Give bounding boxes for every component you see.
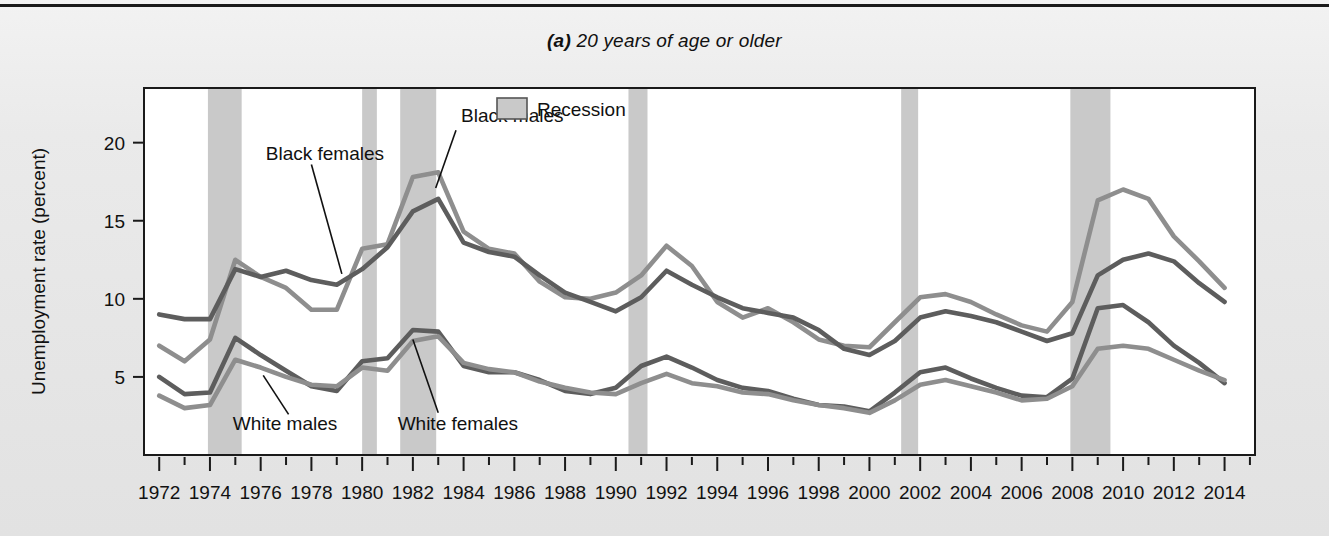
- chart-area: 5101520Unemployment rate (percent) 19721…: [0, 0, 1329, 536]
- x-tick-label: 1986: [493, 482, 535, 503]
- chart-legend: Recession: [497, 98, 626, 120]
- x-tick-label: 1972: [138, 482, 180, 503]
- legend-swatch-recession: [497, 98, 527, 119]
- x-tick-label: 1978: [290, 482, 332, 503]
- x-tick-label: 1992: [645, 482, 687, 503]
- annotation-label-white-males: White males: [233, 413, 338, 434]
- x-tick-label: 2010: [1102, 482, 1144, 503]
- x-tick-label: 1982: [392, 482, 434, 503]
- recession-band: [901, 88, 918, 455]
- annotation-label-white-females: White females: [398, 413, 518, 434]
- x-tick-label: 1988: [544, 482, 586, 503]
- x-tick-label: 2006: [1000, 482, 1042, 503]
- unemployment-line-chart: 5101520Unemployment rate (percent) 19721…: [0, 0, 1329, 536]
- x-tick-label: 2004: [950, 482, 993, 503]
- y-tick-label: 10: [104, 289, 125, 310]
- y-tick-label: 15: [104, 211, 125, 232]
- y-axis: 5101520Unemployment rate (percent): [28, 88, 144, 455]
- x-tick-label: 2000: [848, 482, 890, 503]
- x-axis: 1972197419761978198019821984198619881990…: [138, 455, 1255, 503]
- x-tick-label: 1990: [595, 482, 637, 503]
- x-tick-label: 1996: [747, 482, 789, 503]
- y-axis-title: Unemployment rate (percent): [28, 148, 49, 395]
- x-tick-label: 2002: [899, 482, 941, 503]
- x-tick-label: 1974: [189, 482, 232, 503]
- x-tick-label: 2014: [1203, 482, 1246, 503]
- recession-band: [400, 88, 436, 455]
- y-tick-label: 20: [104, 133, 125, 154]
- x-tick-label: 1980: [341, 482, 383, 503]
- x-tick-label: 1998: [798, 482, 840, 503]
- legend-label-recession: Recession: [537, 99, 626, 120]
- x-tick-label: 2008: [1051, 482, 1093, 503]
- x-tick-label: 2012: [1153, 482, 1195, 503]
- annotation-label-black-females: Black females: [266, 143, 384, 164]
- x-tick-label: 1994: [696, 482, 739, 503]
- x-tick-label: 1976: [240, 482, 282, 503]
- x-tick-label: 1984: [442, 482, 485, 503]
- y-tick-label: 5: [114, 367, 125, 388]
